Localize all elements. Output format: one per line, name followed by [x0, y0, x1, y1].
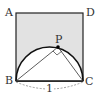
label-d: D: [86, 6, 95, 19]
label-side-length: 1: [46, 82, 53, 95]
label-p: P: [55, 33, 63, 46]
geometry-diagram: A D B C P 1: [0, 0, 103, 99]
label-c: C: [85, 75, 93, 88]
label-a: A: [4, 6, 14, 19]
label-b: B: [5, 74, 13, 87]
